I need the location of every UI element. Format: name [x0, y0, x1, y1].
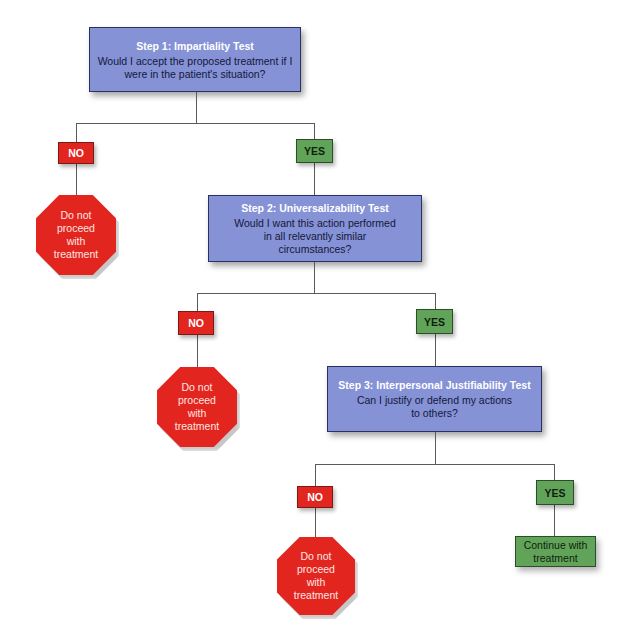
connector: [197, 293, 435, 294]
step-2-box: Step 2: Universalizability Test Would I …: [208, 195, 422, 262]
step-2-yes-label: YES: [416, 309, 453, 334]
step-2-title: Step 2: Universalizability Test: [241, 201, 388, 215]
step-3-yes-label: YES: [536, 480, 574, 505]
connector: [196, 92, 197, 123]
connector: [315, 464, 555, 465]
step-1-no-label: NO: [58, 142, 94, 164]
step-1-title: Step 1: Impartiality Test: [136, 39, 254, 53]
step-1-box: Step 1: Impartiality Test Would I accept…: [89, 27, 301, 92]
step-3-box: Step 3: Interpersonal Justifiability Tes…: [327, 366, 542, 432]
stop-sign-step-2: Do not proceed with treatment: [157, 367, 237, 447]
connector: [314, 262, 315, 293]
stop-sign-step-1: Do not proceed with treatment: [36, 195, 116, 275]
stop-sign-step-3: Do not proceed with treatment: [277, 537, 355, 615]
step-2-no-label: NO: [178, 311, 214, 335]
step-3-title: Step 3: Interpersonal Justifiability Tes…: [338, 378, 530, 392]
step-1-yes-label: YES: [296, 139, 333, 163]
step-1-question: Would I accept the proposed treatment if…: [98, 55, 293, 81]
connector: [435, 432, 436, 464]
step-2-question: Would I want this action performed in al…: [234, 217, 395, 256]
connector: [76, 123, 315, 124]
step-3-no-label: NO: [297, 486, 333, 508]
step-3-question: Can I justify or defend my actions to ot…: [357, 394, 512, 420]
continue-treatment-box: Continue with treatment: [515, 536, 596, 567]
